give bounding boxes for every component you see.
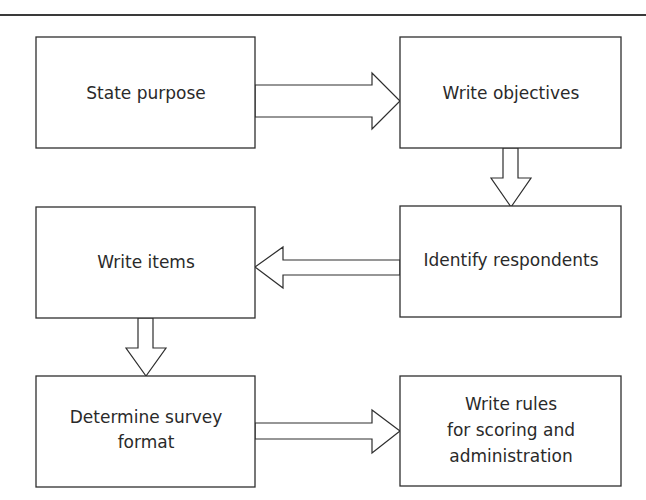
step-label-line-1: Write rules: [465, 394, 557, 414]
step-write-objectives: Write objectives: [400, 37, 621, 148]
flowchart: State purpose Write objectives Identify …: [0, 0, 646, 500]
arrow-down-icon: [126, 318, 166, 376]
step-identify-respondents: Identify respondents: [400, 206, 621, 317]
arrow-right-icon: [255, 73, 400, 129]
step-determine-survey-format: Determine survey format: [36, 376, 255, 487]
step-label: Write items: [97, 252, 195, 272]
step-label-line-2: for scoring and: [447, 420, 575, 440]
step-label: State purpose: [86, 83, 205, 103]
arrow-right-icon: [255, 410, 400, 453]
step-write-items: Write items: [36, 207, 255, 318]
step-label: Write objectives: [443, 83, 580, 103]
step-label-line-2: format: [118, 432, 175, 452]
step-label: Identify respondents: [423, 250, 598, 270]
step-label-line-1: Determine survey: [70, 407, 223, 427]
arrow-down-icon: [491, 148, 531, 207]
step-state-purpose: State purpose: [36, 37, 255, 148]
step-label-line-3: administration: [449, 446, 572, 466]
arrow-left-icon: [255, 247, 400, 288]
step-write-rules: Write rules for scoring and administrati…: [400, 376, 621, 486]
